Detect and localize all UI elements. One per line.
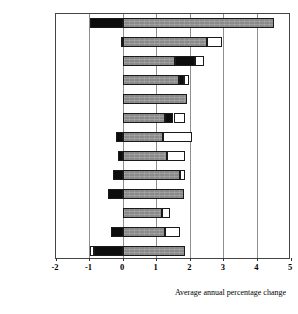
x-tick-label-5: 5 — [280, 262, 298, 272]
x-tick-label--1: -1 — [79, 262, 99, 272]
x-axis-title: Average annual percentage change — [0, 288, 290, 297]
bar-segment-black-finland — [121, 37, 123, 47]
x-tick-label--2: -2 — [45, 262, 65, 272]
bar-segment-gray-germany — [123, 189, 183, 199]
x-axis-tick-labels: -2-1012345 — [0, 262, 298, 276]
bar-segment-black-germany — [108, 189, 123, 199]
bar-segment-gray-australia — [123, 94, 187, 104]
bar-segment-gray-ireland — [123, 18, 274, 28]
bar-segment-gray-canada — [123, 208, 162, 218]
bar-segment-white-sweden — [195, 56, 203, 66]
bar-segment-gray-norway — [123, 170, 180, 180]
x-tick-5 — [291, 258, 292, 261]
bar-row: US — [56, 109, 289, 128]
bar-segment-black-italy — [118, 151, 123, 161]
x-tick-label-4: 4 — [246, 262, 266, 272]
bar-segment-black-netherlands — [94, 246, 124, 256]
bar-segment-gray-us — [123, 113, 165, 123]
x-tick-label-1: 1 — [146, 262, 166, 272]
bar-segment-white-finland — [207, 37, 222, 47]
bar-segment-black-sweden — [175, 56, 195, 66]
bar-row: Italy — [56, 146, 289, 165]
bar-row: Netherlands — [56, 241, 289, 260]
bar-segment-gray-sweden — [123, 56, 175, 66]
bar-row: Sweden — [56, 52, 289, 71]
bar-segment-black-us — [165, 113, 173, 123]
bar-row: Finland — [56, 33, 289, 52]
x-tick-label-3: 3 — [213, 262, 233, 272]
bar-segment-white-france — [165, 227, 180, 237]
bar-segment-black-denmark — [179, 75, 184, 85]
bar-segment-white-canada — [162, 208, 170, 218]
bar-segment-gray-netherlands — [123, 246, 185, 256]
chart-container: IrelandFinlandSwedenDenmarkAustraliaUSUK… — [0, 0, 298, 314]
bar-row: Ireland — [56, 14, 289, 33]
bar-segment-black-uk — [116, 132, 123, 142]
plot-area: IrelandFinlandSwedenDenmarkAustraliaUSUK… — [55, 13, 290, 259]
bar-segment-white-denmark — [184, 75, 189, 85]
bar-segment-black-france — [111, 227, 123, 237]
bar-segment-gray-finland — [123, 37, 207, 47]
bar-segment-white-us — [174, 113, 186, 123]
bar-segment-gray-italy — [123, 151, 167, 161]
bar-row: Norway — [56, 165, 289, 184]
bar-row: Canada — [56, 203, 289, 222]
bar-segment-white-italy — [167, 151, 185, 161]
bar-segment-white-norway — [180, 170, 185, 180]
bar-row: Denmark — [56, 71, 289, 90]
bar-segment-gray-denmark — [123, 75, 178, 85]
bar-row: France — [56, 222, 289, 241]
bar-segment-white-uk — [163, 132, 192, 142]
bar-row: Australia — [56, 90, 289, 109]
bar-segment-gray-france — [123, 227, 165, 237]
bar-row: Germany — [56, 184, 289, 203]
bar-segment-gray-uk — [123, 132, 163, 142]
bar-segment-black-ireland — [90, 18, 124, 28]
x-tick-label-0: 0 — [112, 262, 132, 272]
x-tick-label-2: 2 — [179, 262, 199, 272]
bar-row: UK — [56, 128, 289, 147]
bar-segment-black-norway — [113, 170, 123, 180]
